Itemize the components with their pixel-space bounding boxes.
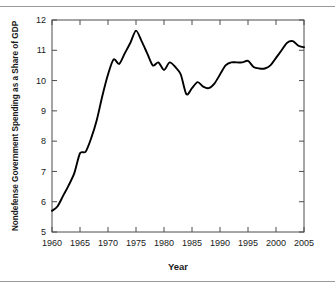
- y-tick-label: 10: [36, 76, 46, 86]
- series-line-nondefense-spending: [52, 31, 304, 211]
- bottom-divider-rule: [0, 281, 335, 282]
- data-series-group: [52, 31, 304, 211]
- line-chart-svg: 56789101112 1960196519701975198019851990…: [0, 8, 335, 280]
- y-tick-label: 5: [41, 227, 46, 237]
- x-tick-label: 1985: [182, 238, 202, 248]
- y-tick-label: 11: [37, 45, 46, 55]
- y-axis-ticks: 56789101112: [36, 15, 304, 237]
- plot-border: [52, 20, 304, 232]
- y-tick-label: 8: [41, 136, 46, 146]
- y-tick-label: 7: [41, 167, 46, 177]
- x-axis-title: Year: [168, 261, 188, 272]
- x-tick-label: 2000: [266, 238, 286, 248]
- x-tick-label: 1990: [210, 238, 230, 248]
- x-axis-ticks: 1960196519701975198019851990199520002005: [42, 20, 314, 248]
- figure-container: 56789101112 1960196519701975198019851990…: [0, 0, 335, 293]
- x-tick-label: 1960: [42, 238, 62, 248]
- x-tick-label: 1975: [126, 238, 146, 248]
- y-axis-title: Nondefense Government Spending as a Shar…: [11, 20, 20, 231]
- y-tick-label: 6: [41, 197, 46, 207]
- x-tick-label: 1980: [154, 238, 174, 248]
- top-divider-rule: [0, 6, 335, 7]
- y-tick-label: 9: [41, 106, 46, 116]
- x-tick-label: 1970: [98, 238, 118, 248]
- chart-area: 56789101112 1960196519701975198019851990…: [0, 8, 335, 280]
- x-tick-label: 1995: [238, 238, 258, 248]
- x-tick-label: 2005: [294, 238, 314, 248]
- y-tick-label: 12: [36, 15, 46, 25]
- plot-frame: [52, 20, 304, 232]
- x-tick-label: 1965: [70, 238, 90, 248]
